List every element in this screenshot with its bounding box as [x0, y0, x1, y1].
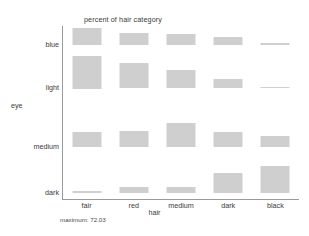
y-tick-label-group: bluelightmediumdark: [0, 0, 59, 236]
cell-bar: [261, 136, 290, 148]
column-medium: [157, 26, 204, 199]
cell-bar: [119, 187, 148, 193]
fluctuation-diagram: percent of hair category eye bluelightme…: [0, 0, 309, 236]
plot-area: [63, 26, 299, 199]
cell-bar: [261, 166, 290, 194]
cell-bar: [166, 123, 195, 148]
cell-bar: [119, 63, 148, 89]
cell-bar: [166, 70, 195, 89]
cell-bar: [214, 79, 243, 88]
cell-bar: [119, 131, 148, 147]
cell-bar: [214, 173, 243, 193]
column-red: [110, 26, 157, 199]
cell-bar: [166, 34, 195, 46]
chart-title: percent of hair category: [84, 15, 162, 24]
cell-bar: [119, 33, 148, 45]
cell-bar: [72, 191, 101, 193]
cell-bar: [261, 43, 290, 45]
cell-bar: [72, 28, 101, 46]
cell-bar: [261, 87, 290, 89]
cell-bar: [214, 132, 243, 147]
y-tick-blue: blue: [45, 40, 59, 49]
column-dark: [205, 26, 252, 199]
cell-bar: [72, 56, 101, 89]
y-tick-dark: dark: [45, 188, 59, 197]
x-axis-line: [62, 199, 299, 200]
cell-bar: [72, 132, 101, 147]
cell-bar: [166, 187, 195, 194]
y-tick-light: light: [46, 83, 59, 92]
cell-bar: [214, 37, 243, 46]
column-fair: [63, 26, 110, 199]
x-axis-title: hair: [0, 208, 309, 217]
y-tick-medium: medium: [33, 142, 59, 151]
column-black: [252, 26, 299, 199]
maximum-footnote: maximum: 72.03: [60, 216, 106, 223]
